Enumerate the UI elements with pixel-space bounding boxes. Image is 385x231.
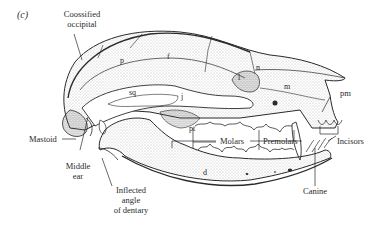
leader-inflected-angle (102, 158, 112, 186)
label-molars: Molars (220, 136, 244, 146)
label-line: Coossified (52, 9, 112, 19)
label-line: angle (106, 195, 156, 205)
label-inflected-angle: Inflected angle of dentary (106, 185, 156, 215)
label-line: Inflected (106, 185, 156, 195)
skull-diagram: (c) Coossified occipital p f n l m pm sq… (0, 0, 385, 231)
label-parietal: p (120, 56, 124, 66)
panel-label: (c) (17, 9, 28, 20)
label-lacrimal: l (238, 73, 240, 83)
label-dentary: d (203, 168, 207, 178)
label-pterygoid: pt (189, 124, 195, 134)
leader-incisors (328, 136, 336, 141)
label-jugal: j (181, 92, 183, 102)
label-squamosal: sq (129, 88, 136, 98)
label-premolars: Premolars (263, 136, 297, 146)
label-premaxilla: pm (340, 88, 351, 98)
label-canine: Canine (303, 186, 327, 196)
label-line: Middle (62, 161, 94, 171)
label-middle-ear: Middle ear (62, 161, 94, 181)
skull-illustration (0, 0, 385, 231)
label-nasal: n (256, 63, 260, 73)
label-line: ear (62, 171, 94, 181)
label-mastoid: Mastoid (29, 134, 57, 144)
label-maxilla: m (284, 82, 290, 92)
leader-occipital (74, 34, 82, 60)
label-line: occipital (52, 19, 112, 29)
label-incisors: Incisors (337, 136, 364, 146)
label-line: of dentary (106, 205, 156, 215)
label-coossified-occipital: Coossified occipital (52, 9, 112, 29)
label-frontal: f (167, 52, 170, 62)
